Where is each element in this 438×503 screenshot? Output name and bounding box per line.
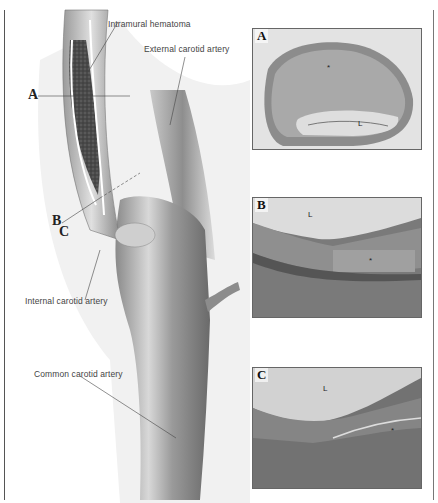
- lumen-marker: L: [358, 119, 362, 128]
- panel-letter: B: [255, 198, 268, 212]
- lumen-marker: L: [308, 210, 312, 219]
- hematoma-marker: *: [391, 426, 394, 435]
- histology-panel-c: C L *: [252, 367, 422, 489]
- label-external-carotid: External carotid artery: [144, 44, 229, 54]
- histology-panel-b: B L *: [252, 197, 422, 318]
- lumen-marker: L: [323, 384, 327, 393]
- label-intramural-hematoma: Intramural hematoma: [108, 19, 191, 29]
- carotid-illustration: [0, 0, 250, 503]
- panel-letter: A: [255, 29, 268, 43]
- panel-letter: C: [255, 368, 268, 382]
- hematoma-marker: *: [369, 256, 372, 265]
- section-marker-c: C: [59, 224, 69, 240]
- hematoma-marker: *: [327, 63, 330, 72]
- label-common-carotid: Common carotid artery: [34, 369, 123, 379]
- histology-panel-a: A * L: [252, 28, 422, 150]
- right-border: [433, 10, 434, 500]
- label-internal-carotid: Internal carotid artery: [25, 296, 108, 306]
- section-marker-a: A: [28, 87, 38, 103]
